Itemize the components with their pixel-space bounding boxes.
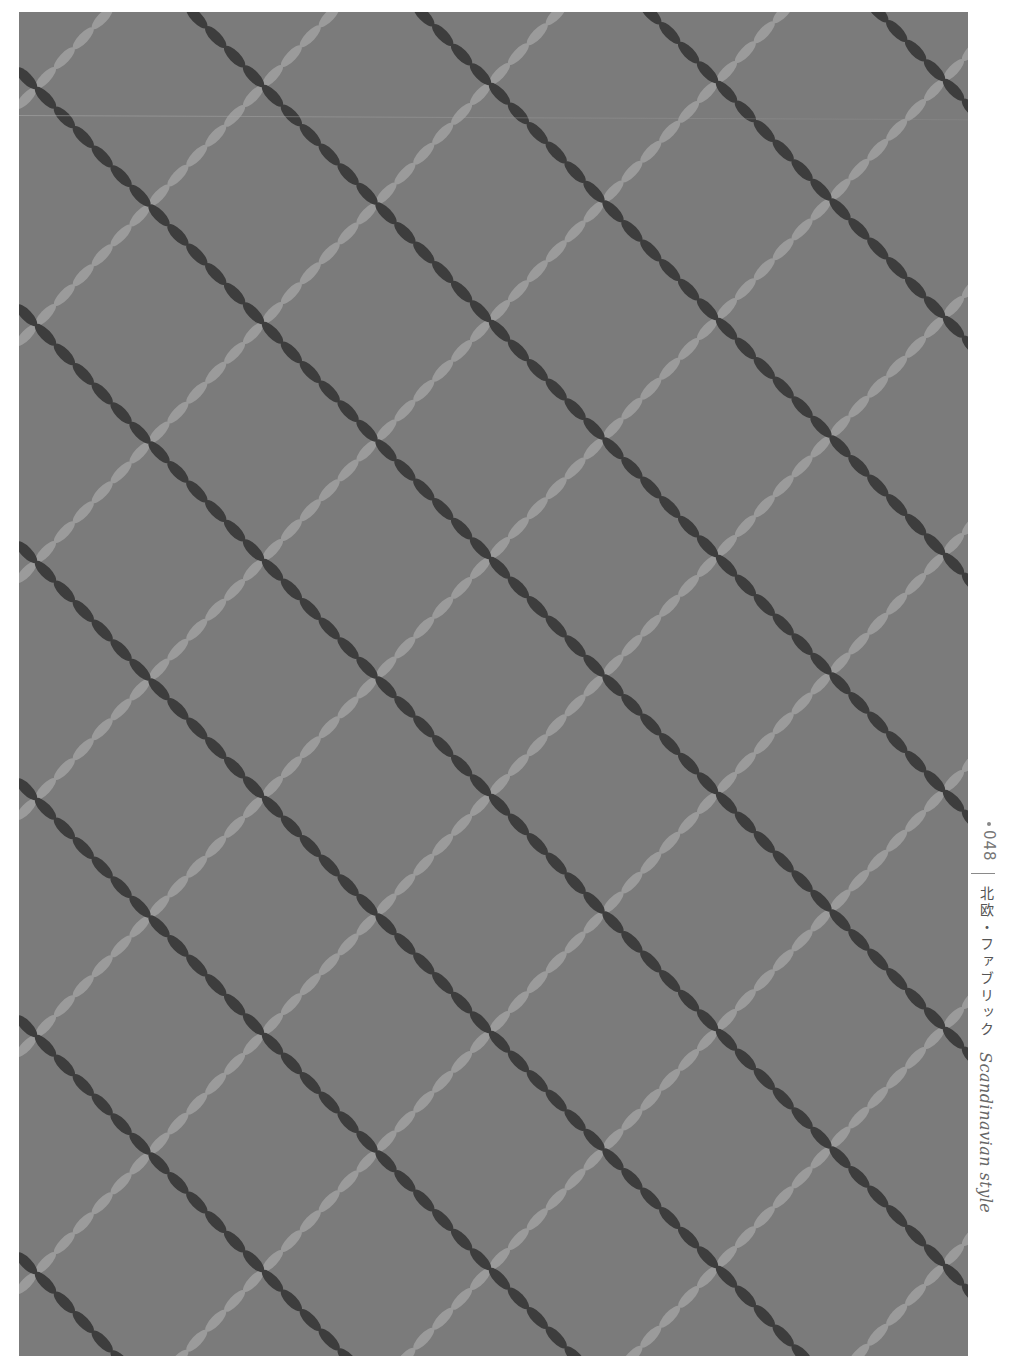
diamond-lattice-pattern	[19, 12, 968, 1356]
page-number-text: 048	[980, 830, 998, 862]
caption-japanese: 北欧・ファブリック	[976, 886, 996, 1039]
margin-separator	[971, 873, 995, 874]
fabric-image	[19, 12, 968, 1356]
caption-english: Scandinavian style	[976, 1052, 995, 1213]
bullet-icon	[987, 822, 991, 826]
page-number: 048	[974, 822, 1004, 872]
